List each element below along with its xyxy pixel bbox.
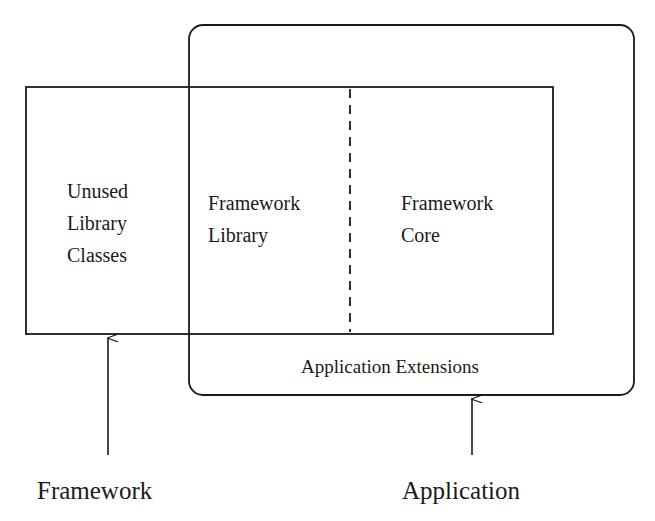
framework-library-line-1: Framework — [208, 187, 300, 219]
framework-library-line-2: Library — [208, 219, 300, 251]
framework-pointer-label: Framework — [37, 476, 152, 506]
unused-line-2: Library — [67, 207, 128, 239]
framework-core-line-1: Framework — [401, 187, 493, 219]
framework-core-label: Framework Core — [401, 187, 493, 251]
framework-core-line-2: Core — [401, 219, 493, 251]
application-pointer-label: Application — [402, 476, 520, 506]
unused-line-3: Classes — [67, 239, 128, 271]
unused-line-1: Unused — [67, 175, 128, 207]
application-extensions-label: Application Extensions — [301, 351, 479, 383]
framework-library-label: Framework Library — [208, 187, 300, 251]
unused-library-classes-label: Unused Library Classes — [67, 175, 128, 271]
